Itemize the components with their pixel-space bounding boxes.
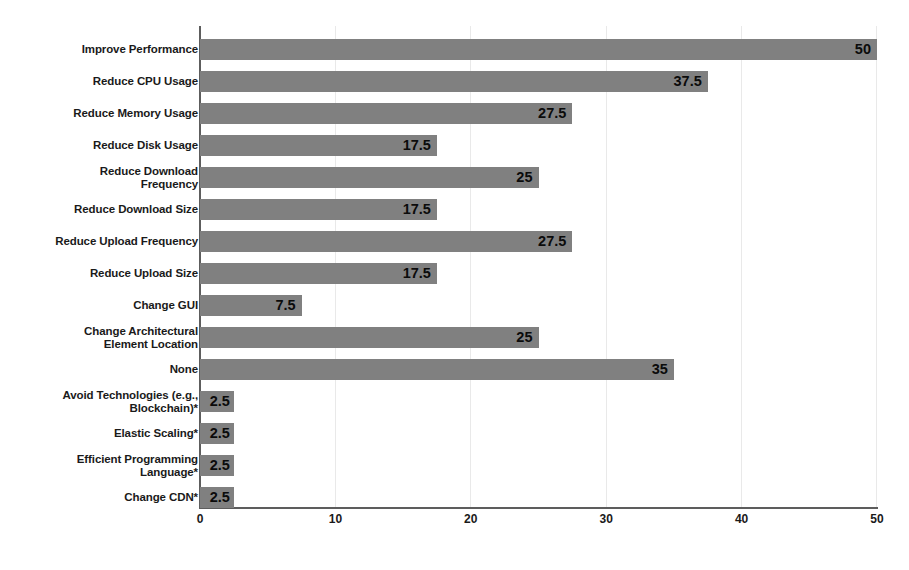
bar-value-label: 37.5 bbox=[674, 71, 702, 92]
bar-container: 25 bbox=[200, 167, 539, 188]
bar-row: Change Architectural Element Location25 bbox=[0, 322, 909, 354]
x-tick-label: 0 bbox=[197, 512, 204, 526]
bar: 27.5 bbox=[200, 103, 572, 124]
category-label: Elastic Scaling* bbox=[8, 418, 198, 450]
bar: 37.5 bbox=[200, 71, 708, 92]
bar-row: Elastic Scaling*2.5 bbox=[0, 418, 909, 450]
bar-value-label: 17.5 bbox=[403, 135, 431, 156]
bar-container: 2.5 bbox=[200, 423, 234, 444]
bar-container: 2.5 bbox=[200, 391, 234, 412]
bar-value-label: 27.5 bbox=[538, 231, 566, 252]
bar-container: 25 bbox=[200, 327, 539, 348]
bar-row: Avoid Technologies (e.g., Blockchain)*2.… bbox=[0, 386, 909, 418]
bar-value-label: 2.5 bbox=[210, 391, 230, 412]
x-tick-label: 40 bbox=[735, 512, 748, 526]
bar: 25 bbox=[200, 327, 539, 348]
x-tick-label: 20 bbox=[464, 512, 477, 526]
x-axis-tick-labels: 01020304050 bbox=[0, 512, 909, 536]
bar-row: None35 bbox=[0, 354, 909, 386]
bar-row: Reduce CPU Usage37.5 bbox=[0, 66, 909, 98]
bar-value-label: 2.5 bbox=[210, 487, 230, 508]
category-label: Change GUI bbox=[8, 290, 198, 322]
bar-rows: Improve Performance50Reduce CPU Usage37.… bbox=[0, 0, 909, 570]
bar-value-label: 2.5 bbox=[210, 455, 230, 476]
category-label: Reduce Disk Usage bbox=[8, 130, 198, 162]
x-tick-label: 50 bbox=[870, 512, 883, 526]
bar-container: 2.5 bbox=[200, 487, 234, 508]
bar: 25 bbox=[200, 167, 539, 188]
bar-value-label: 2.5 bbox=[210, 423, 230, 444]
bar: 17.5 bbox=[200, 263, 437, 284]
bar-value-label: 35 bbox=[652, 359, 668, 380]
bar-value-label: 17.5 bbox=[403, 263, 431, 284]
bar: 17.5 bbox=[200, 199, 437, 220]
bar-container: 17.5 bbox=[200, 263, 437, 284]
bar-container: 37.5 bbox=[200, 71, 708, 92]
bar-value-label: 27.5 bbox=[538, 103, 566, 124]
bar: 2.5 bbox=[200, 487, 234, 508]
category-label: Efficient Programming Language* bbox=[8, 450, 198, 482]
bar-row: Reduce Memory Usage27.5 bbox=[0, 98, 909, 130]
category-label: Change CDN* bbox=[8, 482, 198, 514]
bar: 27.5 bbox=[200, 231, 572, 252]
bar-row: Reduce Disk Usage17.5 bbox=[0, 130, 909, 162]
bar: 2.5 bbox=[200, 391, 234, 412]
bar: 2.5 bbox=[200, 423, 234, 444]
bar-value-label: 17.5 bbox=[403, 199, 431, 220]
bar-container: 50 bbox=[200, 39, 877, 60]
bar-row: Reduce Upload Frequency27.5 bbox=[0, 226, 909, 258]
category-label: Reduce Download Size bbox=[8, 194, 198, 226]
bar: 7.5 bbox=[200, 295, 302, 316]
bar-value-label: 25 bbox=[516, 167, 532, 188]
bar: 50 bbox=[200, 39, 877, 60]
x-tick-label: 30 bbox=[600, 512, 613, 526]
category-label: Reduce CPU Usage bbox=[8, 66, 198, 98]
bar-value-label: 7.5 bbox=[275, 295, 295, 316]
category-label: Reduce Upload Size bbox=[8, 258, 198, 290]
category-label: None bbox=[8, 354, 198, 386]
bar-container: 27.5 bbox=[200, 231, 572, 252]
bar: 2.5 bbox=[200, 455, 234, 476]
bar-row: Reduce Upload Size17.5 bbox=[0, 258, 909, 290]
bar-value-label: 25 bbox=[516, 327, 532, 348]
category-label: Reduce Download Frequency bbox=[8, 162, 198, 194]
category-label: Reduce Memory Usage bbox=[8, 98, 198, 130]
bar-chart: Improve Performance50Reduce CPU Usage37.… bbox=[0, 0, 909, 570]
bar-container: 17.5 bbox=[200, 199, 437, 220]
bar-container: 35 bbox=[200, 359, 674, 380]
bar-container: 2.5 bbox=[200, 455, 234, 476]
bar-row: Change CDN*2.5 bbox=[0, 482, 909, 514]
category-label: Improve Performance bbox=[8, 34, 198, 66]
bar-row: Reduce Download Size17.5 bbox=[0, 194, 909, 226]
bar-row: Improve Performance50 bbox=[0, 34, 909, 66]
bar: 17.5 bbox=[200, 135, 437, 156]
bar: 35 bbox=[200, 359, 674, 380]
category-label: Reduce Upload Frequency bbox=[8, 226, 198, 258]
category-label: Avoid Technologies (e.g., Blockchain)* bbox=[8, 386, 198, 418]
bar-container: 17.5 bbox=[200, 135, 437, 156]
bar-container: 27.5 bbox=[200, 103, 572, 124]
bar-row: Efficient Programming Language*2.5 bbox=[0, 450, 909, 482]
category-label: Change Architectural Element Location bbox=[8, 322, 198, 354]
bar-value-label: 50 bbox=[855, 39, 871, 60]
bar-row: Change GUI7.5 bbox=[0, 290, 909, 322]
bar-container: 7.5 bbox=[200, 295, 302, 316]
bar-row: Reduce Download Frequency25 bbox=[0, 162, 909, 194]
x-tick-label: 10 bbox=[329, 512, 342, 526]
